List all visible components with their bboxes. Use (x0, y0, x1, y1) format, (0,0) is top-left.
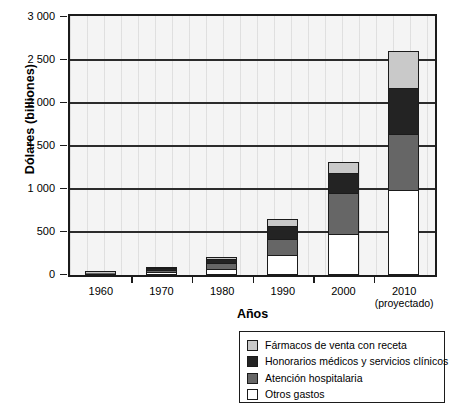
legend-swatch-icon (247, 356, 258, 367)
y-tick-mark (60, 16, 67, 18)
y-tick-mark (60, 274, 67, 276)
x-tick-mark (192, 277, 194, 283)
y-tick-label: 2 500 (3, 53, 55, 65)
bar-segment (267, 255, 298, 275)
y-tick-label: 1 500 (3, 139, 55, 151)
bar-segment (146, 267, 177, 269)
y-tick-label: 3 000 (3, 10, 55, 22)
legend-item-label: Honorarios médicos y servicios clínicos (265, 356, 448, 367)
bar-segment (146, 270, 177, 272)
bar-1980 (206, 17, 237, 275)
bar-segment (388, 51, 419, 88)
legend-item: Otros gastos (247, 387, 437, 403)
bar-segment (267, 239, 298, 255)
x-tick-mark (313, 277, 315, 283)
bar-segment (206, 259, 237, 263)
x-tick-label: 1970 (127, 285, 197, 297)
y-tick-mark (60, 145, 67, 147)
x-tick-label: 2010(proyectado) (369, 285, 439, 309)
y-tick-label: 500 (3, 225, 55, 237)
bar-segment (388, 190, 419, 275)
bar-segment (206, 263, 237, 269)
x-axis-title: Años (68, 307, 437, 321)
bar-segment (388, 88, 419, 134)
bar-segment (328, 193, 359, 233)
bar-segment (146, 268, 177, 270)
bar-segment (267, 226, 298, 240)
gridline (70, 102, 435, 104)
bar-segment (146, 272, 177, 275)
legend-item: Atención hospitalaria (247, 370, 437, 386)
x-tick-mark (253, 277, 255, 283)
bar-segment (267, 219, 298, 225)
bar-1970 (146, 17, 177, 275)
legend-item-label: Otros gastos (265, 389, 325, 400)
legend-item: Fármacos de venta con receta (247, 337, 437, 353)
x-tick-mark (374, 277, 376, 283)
bar-2000 (328, 17, 359, 275)
x-tick-label: 2000 (309, 285, 379, 297)
gridline (70, 231, 435, 233)
bar-segment (388, 134, 419, 190)
x-tick-label: 1990 (248, 285, 318, 297)
legend-swatch-icon (247, 373, 258, 384)
y-tick-mark (60, 231, 67, 233)
bar-segment (328, 234, 359, 275)
bar-segment (206, 269, 237, 275)
chart-canvas: Dólares (billiones) 3 0002 5002 0001 500… (0, 0, 463, 412)
x-tick-label: 1960 (66, 285, 136, 297)
bar-segment (328, 162, 359, 172)
bar-1960 (85, 17, 116, 275)
y-tick-label: 1 000 (3, 182, 55, 194)
chart-legend: Fármacos de venta con recetaHonorarios m… (239, 331, 445, 403)
y-tick-mark (60, 188, 67, 190)
plot-area (68, 14, 437, 277)
legend-swatch-icon (247, 389, 258, 400)
y-tick-mark (60, 102, 67, 104)
y-tick-label: 0 (3, 268, 55, 280)
legend-swatch-icon (247, 340, 258, 351)
legend-item-label: Atención hospitalaria (265, 373, 362, 384)
gridline (70, 145, 435, 147)
legend-item-label: Fármacos de venta con receta (265, 340, 407, 351)
bar-segment (328, 173, 359, 194)
y-tick-label: 2 000 (3, 96, 55, 108)
bar-1990 (267, 17, 298, 275)
y-tick-mark (60, 59, 67, 61)
bar-2010 (388, 17, 419, 275)
gridline (70, 59, 435, 61)
bar-segment (206, 257, 237, 259)
x-tick-label: 1980 (187, 285, 257, 297)
bar-segment (85, 271, 116, 273)
x-tick-mark (131, 277, 133, 283)
gridline (70, 188, 435, 190)
legend-item: Honorarios médicos y servicios clínicos (247, 354, 437, 370)
